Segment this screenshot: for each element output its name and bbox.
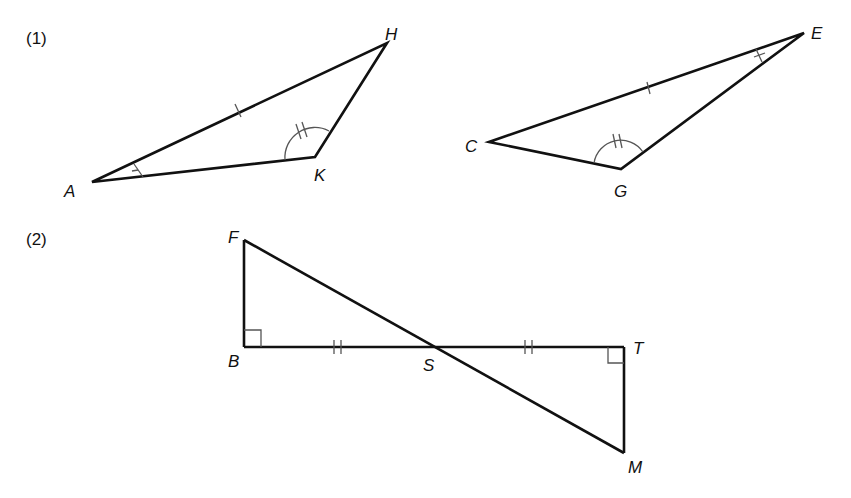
vertex-h: H <box>385 25 398 44</box>
vertex-k: K <box>314 166 326 185</box>
vertex-t: T <box>633 339 645 358</box>
vertex-e: E <box>811 24 823 43</box>
vertex-a: A <box>63 182 75 201</box>
vertex-c: C <box>465 137 478 156</box>
part-1-label: (1) <box>26 29 47 48</box>
vertex-m: M <box>628 458 643 477</box>
vertex-b: B <box>228 352 239 371</box>
figure-fbstm <box>244 240 624 453</box>
right-angle-b <box>244 330 261 347</box>
triangle-cge <box>489 33 804 169</box>
triangle-akh <box>92 43 387 182</box>
part-2-label: (2) <box>26 230 47 249</box>
right-angle-t <box>608 347 624 363</box>
vertex-s: S <box>423 356 435 375</box>
vertex-f: F <box>228 228 240 247</box>
vertex-g: G <box>614 182 627 201</box>
geometry-figure: (1) H A K C G E (2) <box>0 0 851 498</box>
